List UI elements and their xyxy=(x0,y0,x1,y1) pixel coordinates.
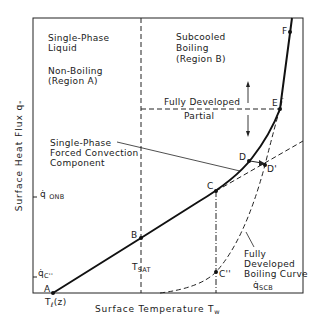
fdb-leader-line xyxy=(246,232,254,247)
label-b: B xyxy=(131,230,137,240)
region-b-label-2: Boiling xyxy=(176,43,209,53)
fully-developed-label: Fully Developed xyxy=(164,97,240,107)
sp-label-1: Single-Phase xyxy=(50,138,111,148)
point-c xyxy=(214,189,218,193)
region-b-label-3: (Region B) xyxy=(176,54,226,64)
region-a-label-4: (Region A) xyxy=(48,76,98,86)
label-f: F xyxy=(282,26,287,36)
region-a-label-3: Non-Boiling xyxy=(48,66,103,76)
point-f xyxy=(288,30,292,34)
q-scb-label: q̇SCB xyxy=(253,280,273,291)
point-e xyxy=(278,107,282,111)
x-axis-label: Surface Temperature Tw xyxy=(95,304,220,315)
x-tick-tsat: TSAT xyxy=(132,262,151,273)
fdb-label-1: Fully xyxy=(244,249,266,259)
label-d: D xyxy=(239,152,246,162)
y-axis-label: Surface Heat Flux q" xyxy=(14,81,25,231)
point-c2 xyxy=(214,270,218,274)
arrow-up-icon xyxy=(246,81,250,87)
point-d xyxy=(247,159,251,163)
region-b-label-1: Subcooled xyxy=(176,32,226,42)
y-tick-q-c2: q̇C'' xyxy=(38,268,53,279)
point-a xyxy=(51,291,55,295)
fdb-label-2: Developed xyxy=(244,259,295,269)
label-c2: C'' xyxy=(219,269,231,279)
partial-label: Partial xyxy=(184,111,214,121)
label-c: C xyxy=(207,181,214,191)
label-e: E xyxy=(272,98,278,108)
label-a: A xyxy=(44,284,50,294)
sp-label-3: Component xyxy=(50,158,105,168)
arrow-down-icon xyxy=(246,131,250,137)
label-d2: D' xyxy=(267,164,277,174)
region-a-label-1: Single-Phase xyxy=(48,33,109,43)
y-tick-q-onb: q̇ ONB xyxy=(40,189,65,200)
x-tick-tl: Tℓ(z) xyxy=(45,297,66,308)
region-a-label-2: Liquid xyxy=(48,43,77,53)
point-b xyxy=(139,236,143,240)
sp-label-2: Forced Convection xyxy=(50,148,139,158)
fdb-label-3: Boiling Curve xyxy=(244,269,308,279)
